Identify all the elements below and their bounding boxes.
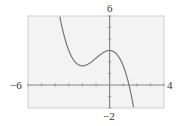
plot-area	[28, 16, 164, 108]
y-max-label: 6	[107, 3, 113, 14]
x-max-label: 4	[167, 80, 173, 91]
x-min-label: −6	[10, 80, 22, 91]
y-min-label: −2	[103, 111, 115, 122]
graph-window	[0, 0, 176, 126]
